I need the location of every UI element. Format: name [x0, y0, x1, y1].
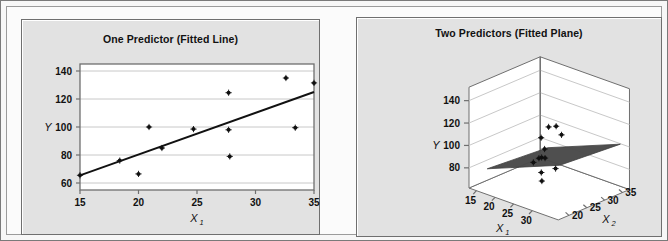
- scatter-plot-area: 60801001201401520253035YX1: [22, 20, 321, 236]
- y-tick-label: 120: [55, 94, 72, 105]
- y-tick-label: 140: [55, 66, 72, 77]
- surface-svg: 80100120140Y15202530X120253035X2: [357, 18, 663, 238]
- x-tick-label: 15: [74, 197, 86, 208]
- y-tick-label: 100: [55, 122, 72, 133]
- x1-tick-label-3d: 25: [502, 208, 514, 219]
- scatter-svg: 60801001201401520253035YX1: [22, 20, 321, 236]
- y-tick-label: 80: [61, 150, 73, 161]
- x1-tick-label-3d: 30: [521, 215, 533, 226]
- x-tick-label: 30: [250, 197, 262, 208]
- x2-axis-title-subscript-3d: 2: [610, 219, 616, 228]
- x2-tick-label-3d: 30: [607, 195, 619, 206]
- y-tick-label-3d: 80: [449, 162, 461, 173]
- panel-one-predictor: One Predictor (Fitted Line) 608010012014…: [21, 19, 320, 235]
- x-tick-label: 20: [133, 197, 145, 208]
- y-axis: 6080100120140: [55, 66, 80, 189]
- x2-tick-label-3d: 35: [625, 187, 637, 198]
- y-tick-label-3d: 120: [443, 118, 460, 129]
- x1-axis-title-subscript-3d: 1: [505, 228, 509, 237]
- y-tick-label: 60: [61, 178, 73, 189]
- x-tick-label: 25: [191, 197, 203, 208]
- y-axis-3d: 80100120140: [443, 95, 469, 173]
- panel-two-predictors: Two Predictors (Fitted Plane) 8010012014…: [356, 17, 662, 237]
- x2-axis-title-3d: X: [601, 213, 610, 225]
- x-axis-title: X: [189, 212, 198, 224]
- y-axis-title-3d: Y: [432, 139, 440, 151]
- x1-tick-label-3d: 15: [465, 195, 477, 206]
- y-axis-title: Y: [44, 121, 52, 133]
- y-tick-label-3d: 140: [443, 95, 460, 106]
- x2-tick-label-3d: 25: [590, 202, 602, 213]
- x1-axis-title-3d: X: [495, 222, 504, 234]
- x-tick-label: 35: [308, 197, 320, 208]
- y-tick-label-3d: 100: [443, 140, 460, 151]
- x-axis: 1520253035: [74, 190, 320, 208]
- figure-inner-frame: One Predictor (Fitted Line) 608010012014…: [6, 6, 662, 235]
- x2-tick-label-3d: 20: [572, 210, 584, 221]
- x-axis-title-subscript: 1: [199, 218, 203, 227]
- surface-plot-area: 80100120140Y15202530X120253035X2: [357, 18, 663, 238]
- figure-frame: One Predictor (Fitted Line) 608010012014…: [0, 0, 668, 241]
- x1-tick-label-3d: 20: [483, 201, 495, 212]
